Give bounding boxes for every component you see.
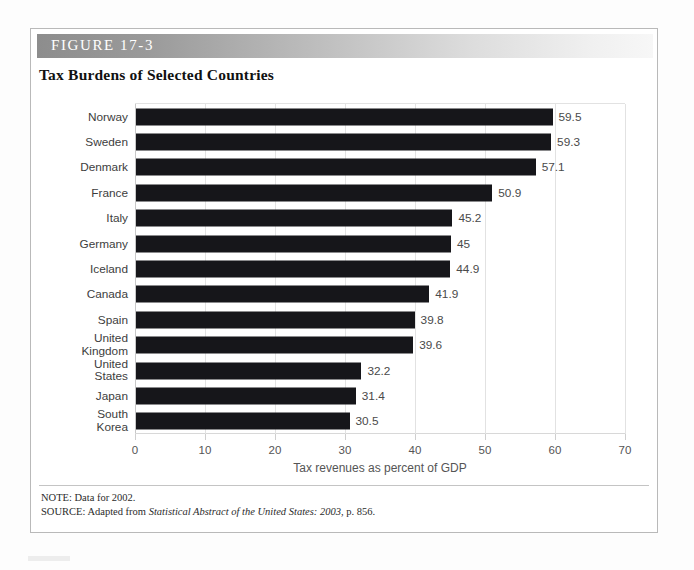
bar-row: Denmark57.1 (135, 155, 625, 180)
source-prefix: SOURCE: Adapted from (41, 506, 149, 517)
category-label: South Korea (97, 409, 128, 434)
category-label: Denmark (80, 161, 128, 174)
bar-value-label: 59.3 (557, 135, 580, 149)
bar (136, 413, 350, 430)
bar-row: Spain39.8 (135, 307, 625, 332)
bar-value-label: 45.2 (458, 211, 481, 225)
x-axis-title: Tax revenues as percent of GDP (293, 461, 466, 475)
category-label: United States (94, 358, 128, 383)
bar-value-label: 59.5 (559, 110, 582, 124)
category-label: United Kingdom (81, 333, 128, 358)
bar-value-label: 39.8 (421, 313, 444, 327)
x-tick-label: 10 (199, 444, 212, 456)
plot-frame: Norway59.5Sweden59.3Denmark57.1France50.… (135, 103, 625, 434)
bar-value-label: 32.2 (367, 364, 390, 378)
bar-value-label: 39.6 (419, 338, 442, 352)
category-label: Spain (98, 313, 128, 326)
figure-header-bar: FIGURE 17-3 (37, 34, 653, 58)
category-label: France (91, 187, 128, 200)
tick-mark (555, 434, 556, 440)
x-tick-label: 70 (619, 444, 632, 456)
x-tick-label: 50 (479, 444, 492, 456)
bar (136, 134, 551, 151)
bar (136, 260, 450, 277)
bar (136, 362, 361, 379)
bar-row: Canada41.9 (135, 282, 625, 307)
category-label: Italy (106, 212, 128, 225)
bar (136, 184, 492, 201)
category-label: Iceland (90, 263, 128, 276)
bar (136, 387, 356, 404)
x-tick-label: 0 (132, 444, 138, 456)
bar-value-label: 30.5 (356, 414, 379, 428)
note-line: NOTE: Data for 2002. (41, 491, 641, 505)
tick-mark (485, 434, 486, 440)
bar-row: Germany45 (135, 231, 625, 256)
x-tick-label: 20 (269, 444, 282, 456)
category-label: Japan (96, 390, 128, 403)
tick-mark (135, 434, 136, 440)
source-line: SOURCE: Adapted from Statistical Abstrac… (41, 505, 641, 519)
figure-box: FIGURE 17-3 Tax Burdens of Selected Coun… (30, 28, 658, 533)
tick-mark (205, 434, 206, 440)
bar (136, 311, 415, 328)
gridline (625, 104, 626, 434)
bar-value-label: 50.9 (498, 186, 521, 200)
bar-row: United Kingdom39.6 (135, 332, 625, 357)
tick-mark (415, 434, 416, 440)
source-suffix: , p. 856. (341, 506, 375, 517)
bar-row: South Korea30.5 (135, 409, 625, 434)
bar (136, 108, 553, 125)
x-tick-label: 40 (409, 444, 422, 456)
chart-area: Norway59.5Sweden59.3Denmark57.1France50.… (31, 103, 657, 483)
bar-row: Sweden59.3 (135, 129, 625, 154)
bar (136, 235, 451, 252)
bar-row: France50.9 (135, 180, 625, 205)
category-label: Canada (87, 288, 128, 301)
x-tick-label: 30 (339, 444, 352, 456)
bar-value-label: 41.9 (435, 287, 458, 301)
category-label: Germany (79, 237, 128, 250)
x-tick-label: 60 (549, 444, 562, 456)
category-label: Sweden (85, 136, 128, 149)
page-background: FIGURE 17-3 Tax Burdens of Selected Coun… (0, 0, 694, 570)
bar-value-label: 31.4 (362, 389, 385, 403)
footer-divider (39, 485, 649, 486)
tick-mark (345, 434, 346, 440)
footnotes: NOTE: Data for 2002. SOURCE: Adapted fro… (41, 491, 641, 519)
bar-row: Norway59.5 (135, 104, 625, 129)
bar (136, 210, 452, 227)
bar-row: Japan31.4 (135, 383, 625, 408)
bar-value-label: 44.9 (456, 262, 479, 276)
tick-mark (625, 434, 626, 440)
bar (136, 159, 536, 176)
tick-mark (275, 434, 276, 440)
bar-value-label: 45 (457, 237, 470, 251)
bar-row: United States32.2 (135, 358, 625, 383)
bar (136, 286, 429, 303)
source-title: Statistical Abstract of the United State… (149, 506, 341, 517)
bar (136, 337, 413, 354)
bar-value-label: 57.1 (542, 160, 565, 174)
figure-title: Tax Burdens of Selected Countries (39, 66, 274, 84)
bar-row: Iceland44.9 (135, 256, 625, 281)
figure-label: FIGURE 17-3 (51, 37, 154, 54)
page-artifact (28, 556, 70, 561)
bar-row: Italy45.2 (135, 206, 625, 231)
category-label: Norway (88, 110, 128, 123)
